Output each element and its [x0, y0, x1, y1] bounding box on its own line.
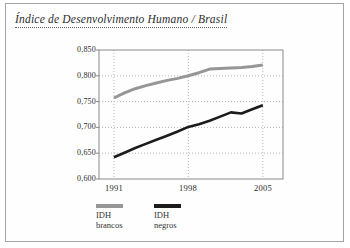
y-tick-label: 0,750 — [54, 97, 96, 107]
y-tick-label: 0,800 — [54, 71, 96, 81]
brancos-line-swatch — [96, 204, 123, 208]
x-tick-label: 1998 — [168, 183, 208, 193]
legend-label-negros-line2: negros — [154, 221, 194, 231]
x-tick-label: 2005 — [243, 183, 283, 193]
legend-item-negros: IDH negros — [154, 204, 194, 230]
negros-line-swatch — [154, 204, 181, 208]
legend-item-brancos: IDH brancos — [96, 204, 136, 230]
y-tick-label: 0,850 — [54, 45, 96, 55]
x-tick-label: 1991 — [94, 183, 134, 193]
chart-card: Índice de Desenvolvimento Humano / Brasi… — [5, 3, 344, 242]
y-tick-label: 0,700 — [54, 122, 96, 132]
y-tick-label: 0,600 — [54, 174, 96, 184]
legend-label-brancos-line2: brancos — [96, 221, 136, 231]
legend: IDH brancos IDH negros — [96, 204, 194, 230]
y-tick-label: 0,650 — [54, 148, 96, 158]
